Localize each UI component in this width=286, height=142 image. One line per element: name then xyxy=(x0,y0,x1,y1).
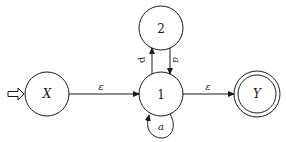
transition-2-to-1: a xyxy=(170,48,182,74)
state-1-label: 1 xyxy=(157,88,165,102)
state-1: 1 xyxy=(139,72,183,116)
transition-1-to-2: b xyxy=(136,48,152,74)
state-2-label: 2 xyxy=(157,22,165,36)
transition-1-to-y-label: ε xyxy=(205,81,210,92)
transition-2-to-1-label: a xyxy=(171,57,182,63)
state-y-label: Y xyxy=(253,87,262,101)
state-y: Y xyxy=(234,71,280,117)
transition-1-to-2-label: b xyxy=(136,57,147,63)
transition-1-self-loop: a xyxy=(148,114,174,138)
transition-1-self-loop-label: a xyxy=(158,121,164,132)
transition-1-to-y: ε xyxy=(183,81,234,94)
automaton-diagram: X 1 2 Y ε ε b xyxy=(0,0,286,142)
transition-x-to-1-label: ε xyxy=(98,81,103,92)
start-arrow-icon xyxy=(8,88,24,100)
transition-x-to-1: ε xyxy=(69,81,139,94)
state-x-label: X xyxy=(42,87,52,101)
state-x: X xyxy=(25,72,69,116)
state-2: 2 xyxy=(139,6,183,50)
